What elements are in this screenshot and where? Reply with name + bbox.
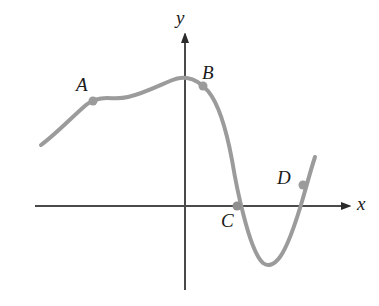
point-label-b: B <box>202 62 214 83</box>
function-curve <box>41 78 315 265</box>
x-axis-label: x <box>356 193 366 214</box>
point-label-a: A <box>74 74 88 95</box>
y-axis-label: y <box>174 7 185 28</box>
point-marker-c <box>233 202 242 211</box>
point-marker-a <box>89 97 98 106</box>
point-label-c: C <box>221 210 234 231</box>
point-label-d: D <box>276 167 291 188</box>
graph-figure: x y A B C D <box>0 0 379 306</box>
graph-canvas: x y A B C D <box>0 0 379 306</box>
point-marker-d <box>299 181 308 190</box>
